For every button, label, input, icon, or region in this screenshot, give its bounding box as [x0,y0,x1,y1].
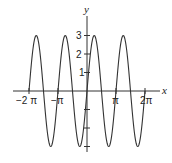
x-axis-label: x [161,84,167,96]
tick-label-two-pi: 2π [140,95,153,106]
tick-label-y2: 2 [76,49,82,60]
sine-chart: y x −2 π −π π 2π 3 2 1 [0,0,172,163]
y-axis-label: y [83,3,89,15]
tick-label-pi: π [112,95,119,106]
tick-label-neg-pi: −π [51,95,64,106]
tick-label-y1: 1 [79,67,85,78]
tick-label-y3: 3 [76,30,82,41]
tick-label-neg-two-pi: −2 π [16,95,37,106]
